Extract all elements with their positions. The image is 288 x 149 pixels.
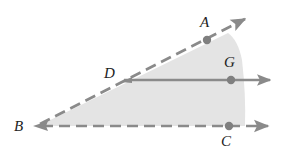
angle-diagram: A B C D G — [0, 0, 288, 149]
point-a — [203, 36, 211, 44]
point-c — [225, 122, 233, 130]
label-a: A — [199, 14, 210, 30]
point-d-tick — [121, 77, 132, 83]
label-g: G — [224, 54, 235, 70]
label-d: D — [103, 65, 115, 81]
label-b: B — [14, 118, 23, 134]
point-g — [227, 76, 235, 84]
label-c: C — [221, 133, 232, 149]
